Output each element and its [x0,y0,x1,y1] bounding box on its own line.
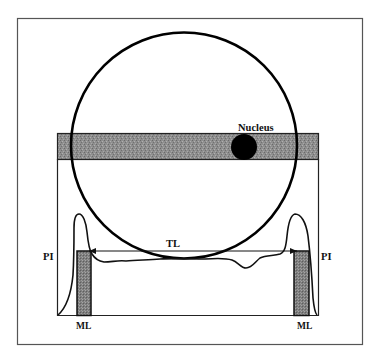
pi-label-left: PI [43,251,54,262]
nucleus-label: Nucleus [238,122,274,133]
nucleus [231,134,257,160]
profile-frame [58,159,319,316]
scan-band [58,134,319,160]
pi-label-right: PI [321,251,332,262]
ml-bar-left [77,251,91,316]
ml-bar-right [294,251,309,316]
ml-label-left: ML [76,321,91,331]
tl-label: TL [166,238,180,249]
ml-label-right: ML [297,321,312,331]
intensity-profile-curve [58,214,317,315]
cell-profile-diagram: Nucleus TL PI PI ML ML [0,0,381,362]
